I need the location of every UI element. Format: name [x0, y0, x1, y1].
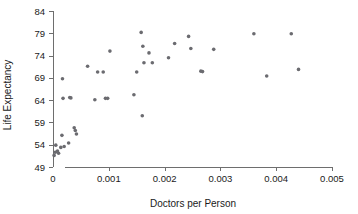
x-tick-label: 0.003	[209, 173, 233, 184]
data-point	[167, 56, 171, 60]
data-point	[57, 151, 61, 155]
y-axis-title: Life Expectancy	[2, 60, 13, 131]
data-point	[62, 145, 66, 149]
data-point	[147, 51, 151, 55]
data-point	[101, 70, 105, 74]
data-point	[93, 98, 97, 102]
x-tick-label: 0.002	[153, 173, 177, 184]
data-point	[59, 146, 63, 150]
data-point	[54, 143, 58, 147]
data-point	[201, 70, 205, 74]
data-point	[61, 97, 65, 101]
data-point	[69, 96, 73, 100]
y-axis: 4954596469747984	[34, 6, 53, 173]
y-tick-label: 64	[34, 95, 45, 106]
data-point	[74, 129, 78, 133]
data-point	[289, 32, 293, 36]
data-point	[86, 64, 90, 68]
data-point	[67, 141, 71, 145]
data-point	[187, 35, 191, 39]
data-point	[173, 42, 177, 46]
y-tick-label: 74	[34, 50, 45, 61]
y-tick-label: 59	[34, 117, 45, 128]
data-point	[189, 47, 193, 51]
data-point	[135, 70, 139, 74]
data-point	[61, 77, 65, 81]
data-point	[141, 44, 145, 48]
data-point	[96, 70, 100, 74]
data-point	[151, 61, 155, 65]
y-tick-label: 84	[34, 6, 45, 17]
data-point	[140, 114, 144, 118]
x-axis: 00.0010.0020.0030.0040.005	[50, 167, 344, 184]
x-tick-label: 0.001	[97, 173, 121, 184]
plot-area: 4954596469747984 00.0010.0020.0030.0040.…	[0, 0, 358, 214]
data-point	[142, 61, 146, 65]
x-axis-title: Doctors per Person	[150, 198, 236, 209]
data-point	[60, 134, 64, 138]
data-point	[297, 68, 301, 72]
y-tick-label: 79	[34, 28, 45, 39]
data-point	[139, 31, 143, 35]
data-point	[265, 74, 269, 78]
data-point	[106, 97, 110, 101]
data-point	[52, 154, 56, 158]
y-tick-label: 49	[34, 162, 45, 173]
data-points	[52, 31, 300, 158]
data-point	[75, 132, 79, 136]
data-point	[212, 48, 216, 52]
x-tick-label: 0.004	[264, 173, 288, 184]
data-point	[132, 93, 136, 97]
y-tick-label: 54	[34, 139, 45, 150]
x-tick-label: 0	[50, 173, 55, 184]
y-tick-label: 69	[34, 72, 45, 83]
data-point	[108, 49, 112, 53]
scatter-chart: 4954596469747984 00.0010.0020.0030.0040.…	[0, 0, 358, 214]
x-tick-label: 0.005	[320, 173, 344, 184]
data-point	[252, 32, 256, 36]
